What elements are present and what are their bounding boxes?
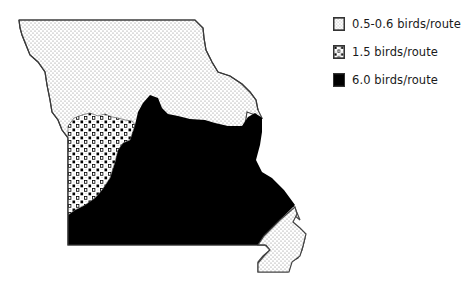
legend-label-high: 6.0 birds/route — [352, 73, 438, 87]
stipple-swatch-icon — [333, 17, 345, 31]
legend-label-low: 0.5-0.6 birds/route — [352, 17, 461, 31]
coarse-dots-swatch-icon — [333, 45, 345, 59]
legend-item-high: 6.0 birds/route — [333, 72, 475, 88]
solid-black-swatch-icon — [333, 73, 345, 87]
legend-label-mid: 1.5 birds/route — [352, 45, 438, 59]
legend-item-mid: 1.5 birds/route — [333, 44, 475, 60]
legend-item-low: 0.5-0.6 birds/route — [333, 16, 475, 32]
map-legend: 0.5-0.6 birds/route 1.5 birds/route 6.0 … — [333, 16, 475, 100]
